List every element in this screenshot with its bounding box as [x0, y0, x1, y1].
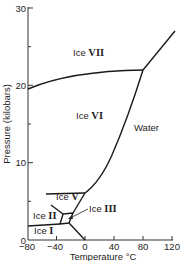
label-ice-vii: Ice VII: [73, 47, 104, 58]
ice-i-water-boundary: [69, 223, 85, 240]
label-water: Water: [134, 122, 159, 133]
svg-text:−80: −80: [19, 241, 35, 252]
svg-text:30: 30: [15, 3, 26, 14]
svg-text:120: 120: [164, 241, 180, 252]
label-ice-i: Ice I: [34, 225, 53, 236]
svg-text:20: 20: [15, 80, 26, 91]
label-ice-vi: Ice VI: [76, 110, 103, 121]
x-axis-label: Temperature °C: [70, 251, 137, 261]
svg-text:80: 80: [138, 241, 149, 252]
ice-vii-water-boundary: [143, 31, 175, 70]
ice-vii-vi-boundary: [28, 70, 143, 89]
label-ice-v: Ice V: [56, 191, 79, 202]
label-ice-iii: Ice III: [89, 203, 117, 214]
y-axis-label: Pressure (kilobars): [1, 84, 12, 164]
y-tick-labels: 30 20 10 0: [15, 3, 26, 246]
svg-text:−40: −40: [47, 241, 63, 252]
svg-text:10: 10: [15, 157, 26, 168]
phase-diagram: 30 20 10 0 −80 −40 0 40 80 120 Temperatu…: [0, 0, 183, 261]
label-ice-ii: Ice II: [33, 210, 57, 221]
ice-iii-arrow: [68, 209, 88, 219]
